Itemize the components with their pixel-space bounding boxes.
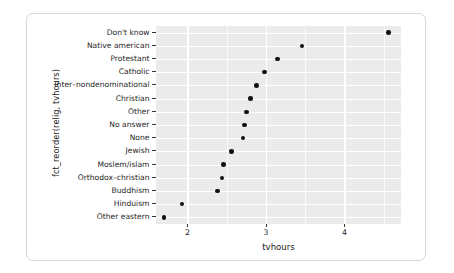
gridline-major-horizontal (156, 217, 401, 218)
y-axis-tick-label: Hinduism (114, 199, 156, 209)
y-axis-tick-text: Protestant (110, 54, 149, 64)
gridline-major-horizontal (156, 165, 401, 166)
gridline-major-horizontal (156, 112, 401, 113)
data-point (386, 30, 391, 35)
gridline-major-horizontal (156, 85, 401, 86)
y-axis-tick-label: Orthodox–christian (78, 173, 156, 183)
data-point (244, 110, 249, 115)
y-axis-tick-text: Christian (116, 94, 150, 104)
data-point (248, 96, 253, 101)
plot-card: fct_reorder(relig, tvhours) Don't knowNa… (26, 13, 426, 261)
y-axis-tick-text: Orthodox–christian (78, 173, 150, 183)
y-axis-tick-text: Other (128, 107, 150, 117)
y-axis-tick-text: No answer (109, 120, 149, 130)
gridline-major-horizontal (156, 178, 401, 179)
y-axis-tick-labels: Don't knowNative americanProtestantCatho… (27, 14, 156, 224)
x-axis-tick-mark (187, 224, 188, 227)
y-axis-tick-text: Buddhism (112, 186, 150, 196)
gridline-major-horizontal (156, 191, 401, 192)
x-axis-tick-label: 2 (177, 228, 197, 237)
data-point (229, 149, 234, 154)
gridline-major-horizontal (156, 99, 401, 100)
x-axis-tick-mark (344, 224, 345, 227)
data-point (215, 189, 220, 194)
y-axis-tick-label: Jewish (125, 146, 156, 156)
data-point (275, 57, 280, 62)
y-axis-tick-label: Don't know (107, 28, 156, 38)
x-axis-ticks: 234 (156, 224, 401, 242)
y-axis-tick-text: Other eastern (97, 212, 150, 222)
y-axis-tick-label: Catholic (119, 67, 156, 77)
x-axis-tick-label: 3 (256, 228, 276, 237)
y-axis-tick-text: None (130, 133, 150, 143)
gridline-major-horizontal (156, 151, 401, 152)
y-axis-tick-text: Jewish (125, 146, 149, 156)
y-axis-tick-label: Buddhism (112, 186, 156, 196)
gridline-major-horizontal (156, 33, 401, 34)
y-axis-tick-label: No answer (109, 120, 156, 130)
data-point (300, 44, 305, 49)
x-axis-tick-label: 4 (334, 228, 354, 237)
y-axis-tick-label: Native american (87, 41, 156, 51)
y-axis-tick-label: Moslem/islam (97, 160, 156, 170)
y-axis-tick-label: Other eastern (97, 212, 156, 222)
y-axis-tick-text: Hinduism (114, 199, 150, 209)
gridline-major-horizontal (156, 125, 401, 126)
plot-panel (156, 26, 401, 224)
y-axis-tick-text: Catholic (119, 67, 150, 77)
data-point (220, 176, 225, 181)
scatter-plot-figure: fct_reorder(relig, tvhours) Don't knowNa… (27, 14, 427, 262)
data-point (180, 202, 185, 207)
data-point (221, 162, 226, 167)
x-axis-title: tvhours (156, 242, 401, 252)
data-point (241, 136, 246, 141)
y-axis-tick-text: Inter–nondenominational (54, 80, 149, 90)
data-point (242, 123, 247, 128)
y-axis-tick-text: Moslem/islam (97, 160, 149, 170)
data-point (162, 215, 167, 220)
y-axis-tick-label: Christian (116, 94, 156, 104)
y-axis-tick-label: Protestant (110, 54, 156, 64)
gridline-major-horizontal (156, 138, 401, 139)
gridline-major-horizontal (156, 204, 401, 205)
x-axis-tick-mark (266, 224, 267, 227)
y-axis-tick-text: Don't know (107, 28, 150, 38)
y-axis-tick-label: None (130, 133, 156, 143)
y-axis-tick-label: Inter–nondenominational (54, 80, 156, 90)
gridline-major-horizontal (156, 72, 401, 73)
data-point (254, 83, 259, 88)
y-axis-tick-text: Native american (87, 41, 150, 51)
y-axis-tick-label: Other (128, 107, 156, 117)
gridline-major-horizontal (156, 46, 401, 47)
